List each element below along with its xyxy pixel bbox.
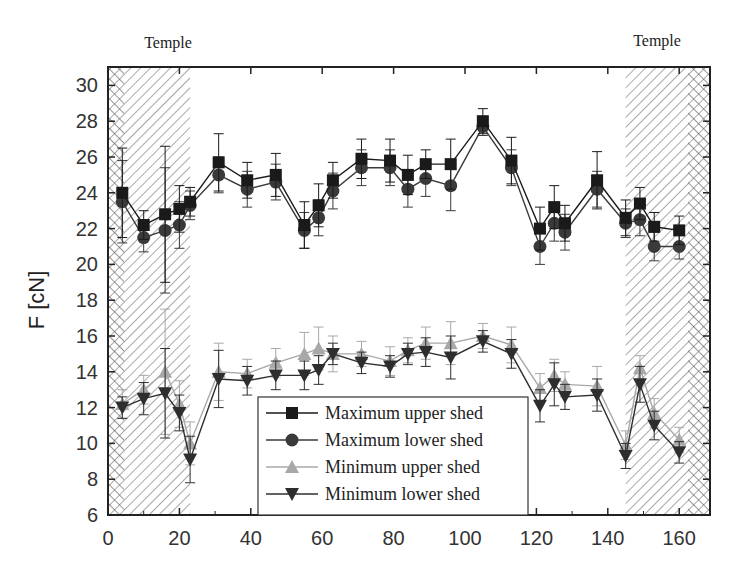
y-tick-label: 20 [76, 253, 98, 275]
data-point [384, 155, 396, 167]
x-tick-label: 40 [240, 527, 262, 549]
legend-marker-circle-icon [286, 434, 299, 447]
x-tick-label: 160 [663, 527, 696, 549]
force-chart: 0204060801001201401606810121416182022242… [0, 0, 739, 574]
data-point [504, 348, 518, 361]
y-axis-label: F [cN] [24, 271, 49, 330]
data-point [402, 169, 414, 181]
temple-region-right-crosshatch [688, 67, 710, 515]
temple-region-left-crosshatch [108, 67, 124, 515]
data-point [138, 219, 150, 231]
series-maximum-lower-shed [116, 118, 686, 293]
data-point [355, 153, 367, 165]
data-point [533, 400, 547, 413]
data-point [298, 219, 310, 231]
data-point [505, 155, 517, 167]
data-point [159, 208, 171, 220]
data-point [634, 198, 646, 210]
legend-label: Minimum upper shed [325, 457, 480, 477]
data-point [241, 174, 253, 186]
data-point [184, 196, 196, 208]
x-tick-label: 80 [382, 527, 404, 549]
y-tick-label: 28 [76, 110, 98, 132]
x-tick-label: 60 [311, 527, 333, 549]
legend: Maximum upper shedMaximum lower shedMini… [258, 397, 528, 515]
series-maximum-upper-shed [116, 109, 685, 283]
legend-label: Maximum lower shed [325, 430, 483, 450]
data-point [548, 201, 560, 213]
data-point [313, 199, 325, 211]
y-tick-label: 26 [76, 146, 98, 168]
x-tick-label: 100 [448, 527, 481, 549]
data-point [116, 187, 128, 199]
data-point [240, 375, 254, 388]
data-point [312, 342, 326, 355]
data-point [620, 212, 632, 224]
data-point [534, 223, 546, 235]
legend-label: Maximum upper shed [325, 403, 483, 423]
data-point [270, 169, 282, 181]
legend-marker-square-icon [286, 407, 298, 419]
data-point [673, 224, 685, 236]
y-tick-label: 18 [76, 289, 98, 311]
x-tick-label: 0 [102, 527, 113, 549]
legend-label: Minimum lower shed [325, 484, 480, 504]
data-point [445, 158, 457, 170]
data-point [477, 115, 489, 127]
x-tick-label: 120 [520, 527, 553, 549]
data-point [297, 347, 311, 360]
y-tick-label: 14 [76, 361, 98, 383]
y-tick-label: 30 [76, 74, 98, 96]
y-tick-label: 8 [87, 468, 98, 490]
data-point [173, 203, 185, 215]
temple-label-right: Temple [633, 32, 681, 50]
data-point [327, 174, 339, 186]
data-point [444, 351, 458, 364]
y-tick-label: 16 [76, 325, 98, 347]
data-point [648, 240, 661, 253]
y-tick-label: 6 [87, 504, 98, 526]
data-point [648, 221, 660, 233]
data-point [559, 217, 571, 229]
y-tick-label: 22 [76, 218, 98, 240]
data-point [213, 156, 225, 168]
x-tick-label: 140 [591, 527, 624, 549]
x-tick-label: 20 [168, 527, 190, 549]
data-point [420, 158, 432, 170]
temple-label-left: Temple [144, 34, 192, 52]
y-tick-label: 10 [76, 432, 98, 454]
y-tick-label: 24 [76, 182, 98, 204]
data-point [591, 174, 603, 186]
y-tick-label: 12 [76, 397, 98, 419]
